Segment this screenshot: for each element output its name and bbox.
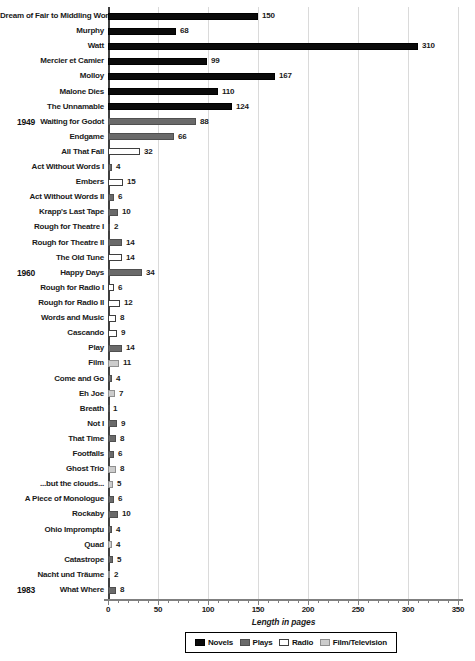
year-annotation: 1960	[17, 268, 35, 278]
bar-plays	[108, 526, 112, 533]
bar-radio	[108, 179, 123, 186]
bar-value: 8	[120, 585, 124, 595]
bar-plays	[108, 269, 142, 276]
plays-swatch-icon	[240, 639, 250, 646]
minor-tick	[138, 601, 139, 603]
minor-tick	[168, 601, 169, 603]
beckett-works-length-chart: Dream of Fair to Middling Women150Murphy…	[0, 0, 475, 661]
minor-tick	[438, 601, 439, 603]
bar-value: 167	[279, 71, 292, 81]
bar-value: 8	[120, 464, 124, 474]
bar-label: Rough for Radio II	[0, 298, 104, 308]
bar-value: 88	[200, 117, 209, 127]
bar-label: Act Without Words I	[0, 162, 104, 172]
minor-tick	[268, 601, 269, 603]
minor-tick	[198, 601, 199, 603]
bar-label: Come and Go	[0, 374, 104, 384]
bar-value: 8	[120, 313, 124, 323]
minor-tick	[298, 601, 299, 603]
bar-plays	[108, 511, 118, 518]
tick-label: 100	[193, 605, 223, 614]
bar-label: Ghost Trio	[0, 464, 104, 474]
tick-label: 350	[443, 605, 473, 614]
bar-label: Rockaby	[0, 509, 104, 519]
bar-label: ...but the clouds...	[0, 479, 104, 489]
bar-value: 1	[113, 404, 117, 414]
minor-tick	[248, 601, 249, 603]
bar-novels	[108, 28, 176, 35]
bar-value: 68	[180, 26, 189, 36]
bar-value: 6	[118, 283, 122, 293]
minor-tick	[448, 601, 449, 603]
bar-label: Mercier et Camier	[0, 56, 104, 66]
bar-film	[108, 360, 119, 367]
minor-tick	[238, 601, 239, 603]
bar-value: 34	[146, 268, 155, 278]
bar-label: A Piece of Monologue	[0, 494, 104, 504]
minor-tick	[338, 601, 339, 603]
gridline-100	[208, 7, 209, 600]
bar-plays	[108, 209, 118, 216]
bar-label: Film	[0, 358, 104, 368]
bar-value: 4	[116, 374, 120, 384]
legend-item-novels: Novels	[195, 638, 233, 647]
bar-novels	[108, 43, 418, 50]
novels-swatch-icon	[195, 639, 205, 646]
bar-plays	[108, 556, 113, 563]
bar-label: Krapp's Last Tape	[0, 207, 104, 217]
gridline-350	[458, 7, 459, 600]
bar-radio	[108, 254, 122, 261]
legend-label: Film/Television	[333, 638, 387, 647]
minor-tick	[368, 601, 369, 603]
bar-value: 5	[117, 555, 121, 565]
bar-label: Waiting for Godot	[0, 117, 104, 127]
minor-tick	[388, 601, 389, 603]
tick-label: 0	[93, 605, 123, 614]
minor-tick	[188, 601, 189, 603]
bar-plays	[108, 194, 114, 201]
bar-film	[108, 481, 113, 488]
bar-plays	[108, 345, 122, 352]
tick-label: 150	[243, 605, 273, 614]
bar-label: Catastrope	[0, 555, 104, 565]
tick-label: 300	[393, 605, 423, 614]
minor-tick	[328, 601, 329, 603]
bar-label: Molloy	[0, 71, 104, 81]
bar-label: All That Fall	[0, 147, 104, 157]
bar-value: 6	[118, 192, 122, 202]
bar-plays	[108, 405, 110, 412]
minor-tick	[218, 601, 219, 603]
bar-value: 10	[122, 509, 131, 519]
plot-area	[108, 7, 459, 600]
minor-tick	[428, 601, 429, 603]
bar-label: That Time	[0, 434, 104, 444]
year-annotation: 1949	[17, 117, 35, 127]
bar-radio	[108, 284, 114, 291]
bar-plays	[108, 118, 196, 125]
bar-value: 5	[117, 479, 121, 489]
bar-label: Nacht und Träume	[0, 570, 104, 580]
bar-value: 6	[118, 449, 122, 459]
minor-tick	[178, 601, 179, 603]
minor-tick	[288, 601, 289, 603]
bar-value: 12	[124, 298, 133, 308]
bar-value: 2	[114, 222, 118, 232]
bar-value: 2	[114, 570, 118, 580]
bar-value: 124	[236, 102, 249, 112]
bar-novels	[108, 88, 218, 95]
bar-value: 66	[178, 132, 187, 142]
bar-label: Rough for Theatre II	[0, 238, 104, 248]
legend-label: Radio	[292, 638, 313, 647]
bar-label: The Old Tune	[0, 253, 104, 263]
bar-value: 32	[144, 147, 153, 157]
radio-swatch-icon	[279, 639, 289, 646]
bar-film	[108, 466, 116, 473]
bar-value: 9	[121, 419, 125, 429]
bar-label: Murphy	[0, 26, 104, 36]
bar-label: What Where	[0, 585, 104, 595]
bar-plays	[108, 239, 122, 246]
bar-value: 9	[121, 328, 125, 338]
bar-radio	[108, 300, 120, 307]
bar-label: Endgame	[0, 132, 104, 142]
bar-label: Rough for Radio I	[0, 283, 104, 293]
